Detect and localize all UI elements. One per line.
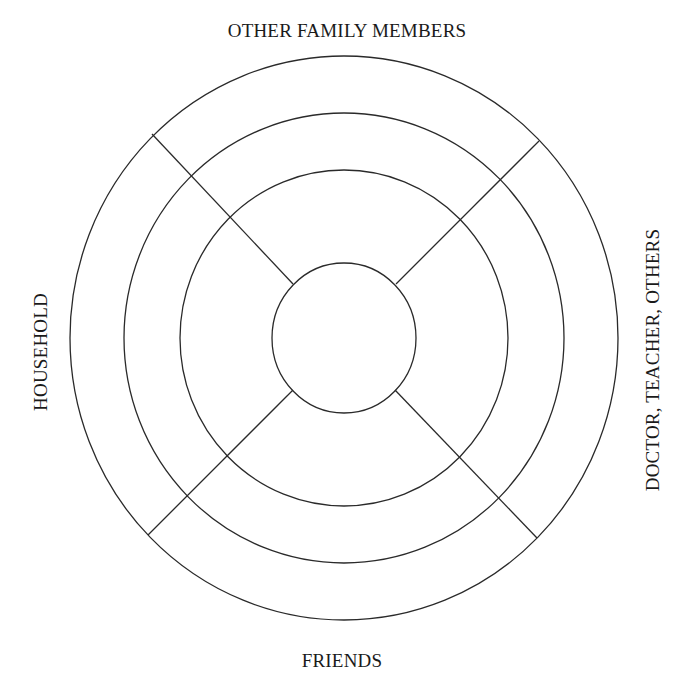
spoke-bottom-left — [148, 390, 293, 535]
spoke-bottom-right — [395, 390, 537, 538]
label-doctor-teacher-others: DOCTOR, TEACHER, OTHERS — [643, 229, 662, 492]
ring-ring-2 — [124, 113, 564, 563]
rings-group — [70, 56, 618, 620]
spoke-top-right — [396, 141, 539, 284]
label-other-family-members: OTHER FAMILY MEMBERS — [0, 21, 684, 40]
ring-outer — [70, 56, 618, 620]
label-friends: FRIENDS — [0, 651, 684, 670]
spoke-top-left — [152, 134, 293, 284]
ring-inner — [272, 263, 416, 413]
spokes-group — [148, 134, 539, 538]
support-network-diagram: OTHER FAMILY MEMBERS FRIENDS HOUSEHOLD D… — [0, 0, 684, 679]
label-household: HOUSEHOLD — [31, 293, 50, 411]
concentric-circles-graphic — [0, 0, 684, 679]
